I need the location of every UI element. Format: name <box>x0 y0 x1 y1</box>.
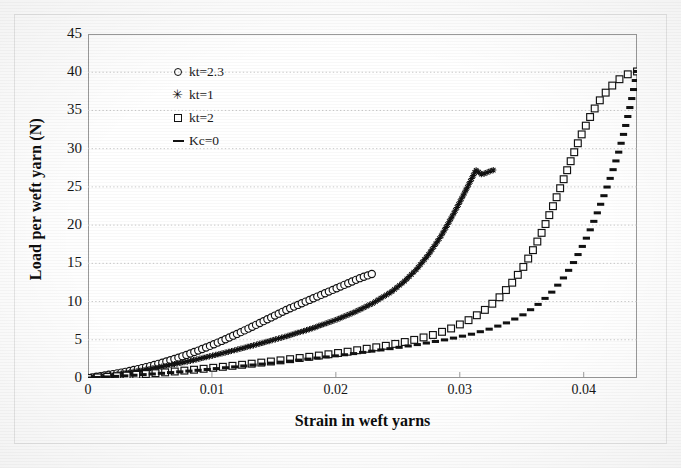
legend-label: Kc=0 <box>189 133 219 149</box>
x-tick-0.02: 0.02 <box>311 382 361 398</box>
x-tick-0.01: 0.01 <box>187 382 237 398</box>
series-kc-0 <box>88 70 637 378</box>
y-tick-25: 25 <box>58 178 82 195</box>
y-tick-30: 30 <box>58 140 82 157</box>
series-kt-2 <box>88 68 637 378</box>
y-tick-35: 35 <box>58 101 82 118</box>
y-axis-title-holder: Load per weft yarn (N) <box>18 40 52 380</box>
y-tick-45: 45 <box>58 25 82 42</box>
legend-label: kt=2 <box>189 110 214 126</box>
x-axis-title: Strain in weft yarns <box>88 412 637 430</box>
plot-svg <box>88 34 637 378</box>
star-icon: ✳ <box>172 88 186 102</box>
x-tick-0.04: 0.04 <box>559 382 609 398</box>
open-circle-icon <box>172 65 186 79</box>
y-tick-20: 20 <box>58 216 82 233</box>
figure-canvas: 051015202530354045 Load per weft yarn (N… <box>0 0 681 468</box>
legend-label: kt=2.3 <box>189 64 224 80</box>
legend-item-kc-0: Kc=0 <box>172 129 224 152</box>
plot-area: kt=2.3✳kt=1kt=2Kc=0 <box>88 34 637 378</box>
legend-label: kt=1 <box>189 87 214 103</box>
series-kt-1 <box>88 167 496 378</box>
x-tick-0: 0 <box>63 382 113 398</box>
y-tick-5: 5 <box>58 331 82 348</box>
dash-glyph <box>173 140 184 142</box>
legend-item-kt-1: ✳kt=1 <box>172 83 224 106</box>
y-tick-10: 10 <box>58 293 82 310</box>
open-square-icon <box>172 111 186 125</box>
legend-item-kt-2-3: kt=2.3 <box>172 60 224 83</box>
square-glyph <box>174 114 182 122</box>
y-axis-title: Load per weft yarn (N) <box>27 49 45 349</box>
chart-legend: kt=2.3✳kt=1kt=2Kc=0 <box>172 60 224 152</box>
legend-item-kt-2: kt=2 <box>172 106 224 129</box>
dash-icon <box>172 134 186 148</box>
x-tick-0.03: 0.03 <box>435 382 485 398</box>
star-glyph: ✳ <box>172 87 183 102</box>
y-tick-40: 40 <box>58 63 82 80</box>
y-tick-15: 15 <box>58 254 82 271</box>
circle-glyph <box>174 68 182 76</box>
